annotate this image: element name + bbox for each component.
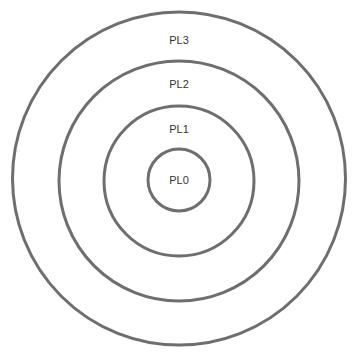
privilege-levels-diagram: PL3 PL2 PL1 PL0 <box>0 0 362 357</box>
label-pl1: PL1 <box>169 123 189 135</box>
label-pl3: PL3 <box>169 34 189 46</box>
label-pl2: PL2 <box>169 78 189 90</box>
label-pl0: PL0 <box>169 174 189 186</box>
